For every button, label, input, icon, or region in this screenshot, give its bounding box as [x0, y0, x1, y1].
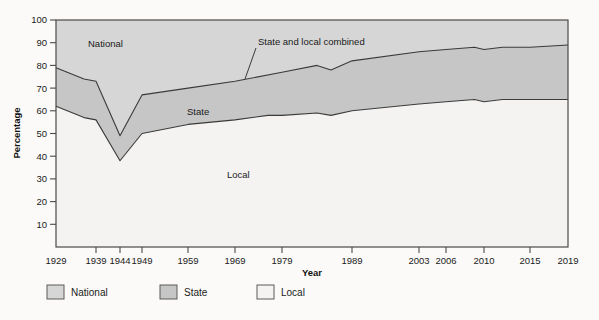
y-axis-tick-label: 60 — [36, 105, 47, 116]
x-axis-tick-label: 2015 — [519, 255, 540, 266]
legend-label: State — [184, 287, 208, 298]
x-axis-tick-label: 1929 — [45, 255, 66, 266]
y-axis-tick-label: 10 — [36, 219, 47, 230]
y-axis-tick-label: 100 — [31, 14, 47, 25]
y-axis: 102030405060708090100 — [31, 14, 56, 229]
x-axis-tick-label: 1939 — [85, 255, 106, 266]
legend-swatch — [160, 285, 177, 299]
x-axis-tick-label: 2003 — [408, 255, 429, 266]
x-axis-title: Year — [302, 267, 322, 278]
y-axis-tick-label: 30 — [36, 173, 47, 184]
legend-swatch — [47, 285, 64, 299]
y-axis-tick-label: 70 — [36, 83, 47, 94]
chart-legend: NationalStateLocal — [47, 285, 305, 299]
series-annotation-label: State — [187, 106, 209, 117]
series-annotation-label: Local — [227, 169, 250, 180]
x-axis: 1929193919441949195919691979198920032006… — [45, 247, 578, 266]
x-axis-tick-label: 1959 — [177, 255, 198, 266]
x-axis-tick-label: 1989 — [341, 255, 362, 266]
series-annotation-label: State and local combined — [258, 36, 365, 47]
x-axis-tick-label: 2006 — [435, 255, 456, 266]
series-annotation-label: National — [88, 38, 123, 49]
legend-swatch — [257, 285, 274, 299]
x-axis-tick-label: 1979 — [271, 255, 292, 266]
y-axis-tick-label: 80 — [36, 60, 47, 71]
y-axis-tick-label: 50 — [36, 128, 47, 139]
x-axis-tick-label: 1944 — [109, 255, 130, 266]
y-axis-title: Percentage — [11, 107, 22, 158]
x-axis-tick-label: 1949 — [131, 255, 152, 266]
stacked-area-chart: 102030405060708090100 192919391944194919… — [0, 0, 599, 320]
y-axis-tick-label: 90 — [36, 37, 47, 48]
x-axis-tick-label: 2010 — [473, 255, 494, 266]
x-axis-tick-label: 2019 — [557, 255, 578, 266]
chart-figure: 102030405060708090100 192919391944194919… — [0, 0, 599, 320]
legend-label: Local — [281, 287, 305, 298]
legend-label: National — [71, 287, 108, 298]
y-axis-tick-label: 40 — [36, 151, 47, 162]
x-axis-tick-label: 1969 — [224, 255, 245, 266]
y-axis-tick-label: 20 — [36, 196, 47, 207]
